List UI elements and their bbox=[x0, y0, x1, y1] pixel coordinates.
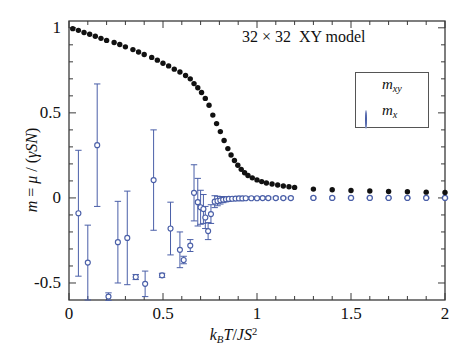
chart-title-annotation: 32 × 32 XY model bbox=[242, 28, 366, 46]
x-tick-label-1: 1 bbox=[227, 305, 287, 322]
legend-label-mxy: mxy bbox=[382, 76, 402, 94]
legend-entry-mx: mx bbox=[356, 100, 428, 127]
legend-entry-mxy: mxy bbox=[356, 74, 428, 101]
x-axis-label: kBT/JS2 bbox=[0, 326, 467, 345]
legend-label-mx: mx bbox=[382, 102, 397, 120]
x-tick-label-1.5: 1.5 bbox=[321, 305, 381, 322]
x-tick-label-0.5: 0.5 bbox=[133, 305, 193, 322]
legend-box: mxy mx bbox=[355, 72, 429, 128]
open-circle-marker-icon bbox=[365, 111, 367, 129]
y-tick-label-1: 1 bbox=[6, 19, 61, 36]
x-tick-label-0: 0 bbox=[39, 305, 99, 322]
y-tick-label-neg0.5: -0.5 bbox=[6, 274, 61, 291]
x-tick-label-2: 2 bbox=[415, 305, 467, 322]
y-axis-label: m = μ / (γSN) bbox=[23, 70, 41, 270]
figure-panel: 1 0.5 0 -0.5 0 0.5 1 1.5 2 m = μ / (γSN)… bbox=[0, 0, 467, 359]
